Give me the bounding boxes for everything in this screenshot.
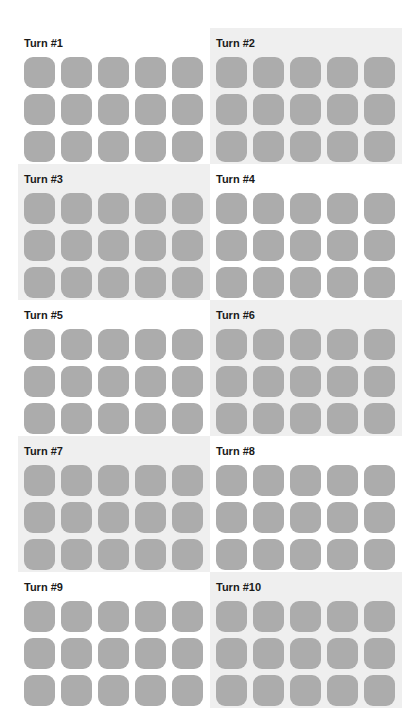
- tile: [98, 465, 129, 496]
- turn-title: Turn #9: [24, 580, 210, 594]
- tile: [364, 638, 395, 669]
- tile-grid: [216, 329, 402, 434]
- tile: [216, 131, 247, 162]
- tile-grid: [24, 57, 210, 162]
- tile: [364, 230, 395, 261]
- tile: [24, 502, 55, 533]
- tile: [135, 131, 166, 162]
- tile: [135, 638, 166, 669]
- tile: [327, 94, 358, 125]
- tile: [364, 465, 395, 496]
- tile: [253, 675, 284, 706]
- turn-panel-8: Turn #8: [210, 436, 402, 572]
- tile: [290, 539, 321, 570]
- tile: [290, 230, 321, 261]
- turn-title: Turn #10: [216, 580, 402, 594]
- tile: [61, 131, 92, 162]
- tile: [290, 465, 321, 496]
- tile: [253, 230, 284, 261]
- tile: [24, 465, 55, 496]
- tile: [172, 366, 203, 397]
- tile: [290, 329, 321, 360]
- tile: [24, 601, 55, 632]
- turn-panel-4: Turn #4: [210, 164, 402, 300]
- tile: [172, 502, 203, 533]
- tile: [172, 94, 203, 125]
- tile: [135, 601, 166, 632]
- tile: [290, 638, 321, 669]
- tile: [364, 366, 395, 397]
- tile: [135, 675, 166, 706]
- tile: [172, 601, 203, 632]
- tile: [61, 57, 92, 88]
- tile: [61, 329, 92, 360]
- tile: [216, 539, 247, 570]
- turn-title: Turn #3: [24, 172, 210, 186]
- turn-panel-2: Turn #2: [210, 28, 402, 164]
- tile: [135, 539, 166, 570]
- tile: [61, 539, 92, 570]
- tile: [364, 329, 395, 360]
- turn-title: Turn #4: [216, 172, 402, 186]
- tile: [364, 601, 395, 632]
- tile-grid: [216, 57, 402, 162]
- tile: [216, 329, 247, 360]
- tile: [253, 539, 284, 570]
- tile: [98, 267, 129, 298]
- turn-panel-9: Turn #9: [18, 572, 210, 708]
- tile: [24, 94, 55, 125]
- tile: [24, 193, 55, 224]
- tile: [327, 131, 358, 162]
- tile: [98, 57, 129, 88]
- tile: [253, 267, 284, 298]
- tile-grid: [216, 193, 402, 298]
- tile: [327, 539, 358, 570]
- tile: [216, 465, 247, 496]
- tile: [327, 57, 358, 88]
- tile-grid: [24, 329, 210, 434]
- tile: [364, 675, 395, 706]
- tile: [61, 94, 92, 125]
- tile: [290, 94, 321, 125]
- tile: [253, 131, 284, 162]
- tile: [98, 94, 129, 125]
- tile: [98, 131, 129, 162]
- tile: [98, 329, 129, 360]
- tile: [216, 502, 247, 533]
- tile: [216, 675, 247, 706]
- tile: [253, 366, 284, 397]
- tile: [290, 675, 321, 706]
- turn-panel-10: Turn #10: [210, 572, 402, 708]
- turn-panel-1: Turn #1: [18, 28, 210, 164]
- tile: [172, 230, 203, 261]
- turn-title: Turn #8: [216, 444, 402, 458]
- tile: [61, 675, 92, 706]
- tile: [216, 403, 247, 434]
- tile: [290, 193, 321, 224]
- turn-panel-5: Turn #5: [18, 300, 210, 436]
- tile: [98, 638, 129, 669]
- tile: [216, 366, 247, 397]
- tile: [98, 539, 129, 570]
- tile: [172, 675, 203, 706]
- tile: [24, 539, 55, 570]
- tile: [364, 267, 395, 298]
- tile: [98, 601, 129, 632]
- turn-title: Turn #5: [24, 308, 210, 322]
- tile: [364, 403, 395, 434]
- tile: [290, 502, 321, 533]
- tile: [135, 403, 166, 434]
- tile: [98, 366, 129, 397]
- tile: [253, 193, 284, 224]
- tile: [253, 57, 284, 88]
- tile: [364, 57, 395, 88]
- faint-footer-mark: [56, 710, 86, 714]
- tile: [364, 193, 395, 224]
- turn-title: Turn #1: [24, 36, 210, 50]
- tile: [327, 329, 358, 360]
- tile: [327, 465, 358, 496]
- tile: [135, 267, 166, 298]
- tile: [135, 329, 166, 360]
- tile: [24, 267, 55, 298]
- tile: [61, 193, 92, 224]
